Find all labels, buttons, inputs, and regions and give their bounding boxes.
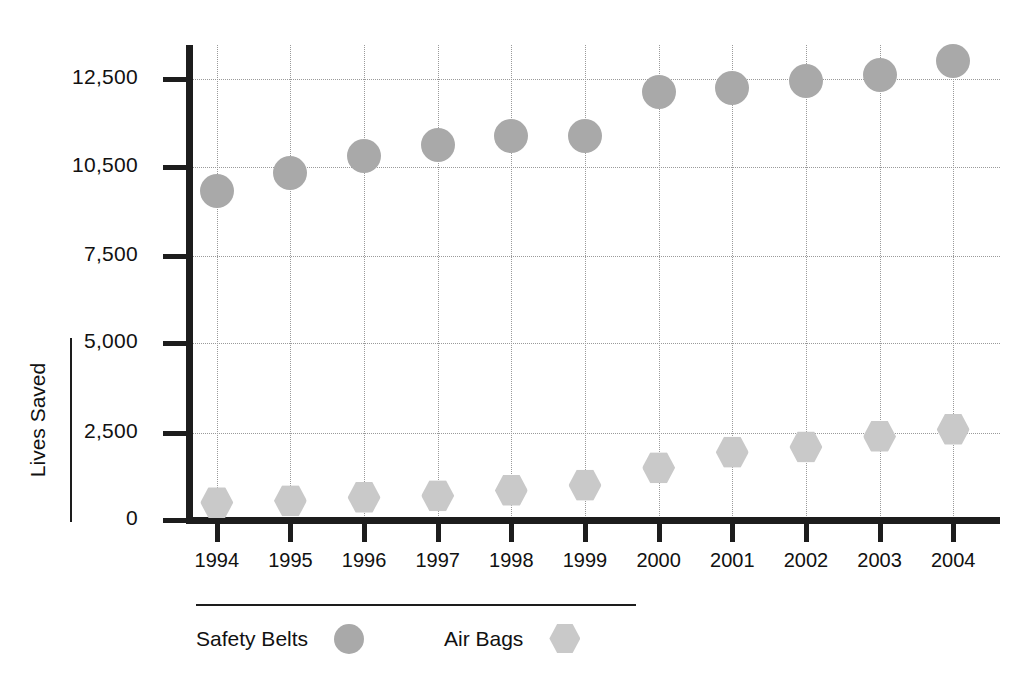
y-axis-tick [163,254,189,259]
data-point-safety-belts [200,174,234,208]
chart-page: 02,5005,0007,50010,50012,500 19941995199… [0,0,1010,689]
y-axis-title-wrap: Lives Saved [18,338,58,522]
y-axis-tick-label: 7,500 [18,242,138,266]
legend-swatch-hexagon-icon [549,624,580,653]
y-axis-tick [163,431,189,436]
data-point-safety-belts [568,119,602,153]
x-axis-tick [215,523,220,542]
legend-item-safety-belts[interactable]: Safety Belts [196,624,364,654]
data-point-safety-belts [863,58,897,92]
gridline-vertical [585,45,586,520]
y-axis-tick [163,518,189,523]
y-axis-tick-label: 12,500 [18,65,138,89]
y-axis-tick [163,341,189,346]
y-axis-title: Lives Saved [26,328,50,512]
gridline-horizontal [190,167,1000,168]
y-axis-tick [163,77,189,82]
y-axis-tick-label: 10,500 [18,153,138,177]
data-point-safety-belts [421,128,455,162]
x-axis-tick-label: 2004 [908,549,998,572]
y-axis-title-rule [70,338,72,522]
x-axis-tick [288,523,293,542]
gridline-vertical [511,45,512,520]
legend-label-air-bags: Air Bags [444,627,523,651]
gridline-horizontal [190,256,1000,257]
data-point-safety-belts [936,44,970,78]
data-point-safety-belts [789,64,823,98]
data-point-safety-belts [347,139,381,173]
gridline-horizontal [190,343,1000,344]
x-axis-tick [730,523,735,542]
x-axis-tick [951,523,956,542]
legend-swatch-circle-icon [334,624,364,654]
legend-label-safety-belts: Safety Belts [196,627,308,651]
legend-rule [196,604,636,606]
gridline-vertical [438,45,439,520]
x-axis-tick [878,523,883,542]
data-point-safety-belts [273,156,307,190]
data-point-safety-belts [715,71,749,105]
data-point-safety-belts [494,119,528,153]
gridline-vertical [953,45,954,520]
x-axis-tick [657,523,662,542]
data-point-safety-belts [642,75,676,109]
x-axis-tick [509,523,514,542]
x-axis-tick [583,523,588,542]
x-axis-tick [436,523,441,542]
x-axis-tick [362,523,367,542]
gridline-vertical [290,45,291,520]
legend-item-air-bags[interactable]: Air Bags [444,624,580,653]
gridline-vertical [217,45,218,520]
gridline-vertical [364,45,365,520]
gridline-vertical [659,45,660,520]
y-axis-line [186,45,193,523]
y-axis-tick [163,165,189,170]
x-axis-tick [804,523,809,542]
